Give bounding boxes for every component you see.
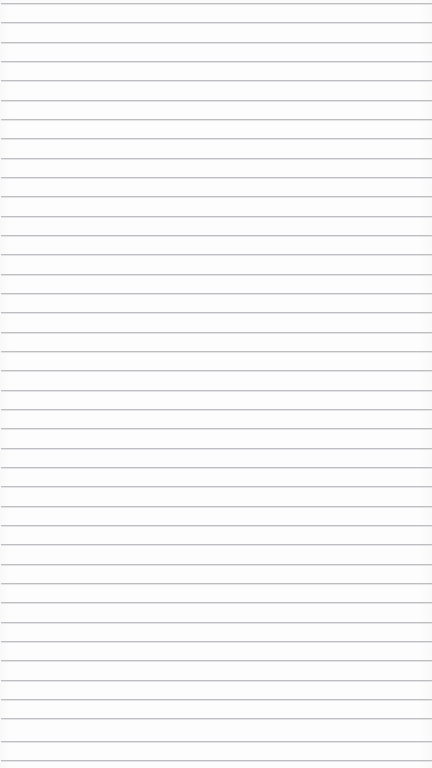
lined-paper-sheet: [0, 0, 432, 768]
writing-area[interactable]: [0, 0, 432, 768]
